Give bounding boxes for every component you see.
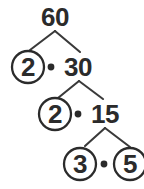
- multiplication-dot-1: [48, 64, 55, 71]
- node-prime-3: 3: [73, 149, 87, 179]
- branch-3-left-line: [85, 128, 105, 146]
- multiplication-dot-2: [75, 111, 82, 118]
- branch-3-right-line: [105, 128, 130, 147]
- multiplication-dot-3: [101, 161, 108, 168]
- branch-1-right-line: [55, 31, 80, 52]
- factor-tree-diagram: 60 2 30 2 15: [0, 0, 144, 189]
- node-prime-2-first: 2: [21, 52, 35, 82]
- node-composite-15: 15: [91, 99, 119, 129]
- factor-tree-canvas: 60 2 30 2 15: [0, 0, 144, 189]
- branch-2-left-line: [58, 81, 79, 98]
- row-level-3: 3 5: [64, 148, 144, 180]
- branch-2-right-line: [79, 81, 103, 99]
- node-prime-2-second: 2: [48, 99, 62, 129]
- branch-level-1: [30, 31, 80, 52]
- branch-level-2: [58, 81, 103, 99]
- node-root-60: 60: [41, 2, 69, 32]
- branch-level-3: [85, 128, 130, 147]
- node-prime-5: 5: [123, 149, 137, 179]
- branch-1-left-line: [30, 31, 55, 50]
- row-level-1: 2 30: [12, 51, 92, 83]
- node-composite-30: 30: [64, 52, 92, 82]
- row-level-2: 2 15: [39, 98, 119, 130]
